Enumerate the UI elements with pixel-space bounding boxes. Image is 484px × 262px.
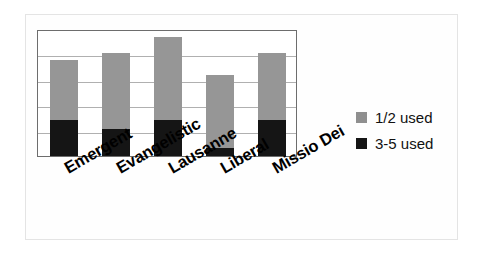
bar-segment-3-5-used[interactable]: [50, 120, 77, 156]
legend-swatch-black-icon: [356, 138, 367, 149]
bar-stack[interactable]: [102, 53, 129, 156]
bar-segment-1-2-used[interactable]: [258, 53, 285, 120]
chart-figure: EmergentEvangelisticLausanneLiberalMissi…: [0, 0, 484, 262]
legend-label-1-2-used: 1/2 used: [375, 109, 433, 126]
bar-group: [258, 31, 285, 156]
bar-segment-1-2-used[interactable]: [206, 75, 233, 149]
bar-segment-1-2-used[interactable]: [50, 60, 77, 121]
plot-area: [37, 30, 297, 157]
legend-swatch-gray-icon: [356, 112, 367, 123]
bar-group: [50, 31, 77, 156]
bar-segment-3-5-used[interactable]: [154, 120, 181, 156]
bar-stack[interactable]: [258, 53, 285, 156]
chart-legend: 1/2 used 3-5 used: [356, 104, 466, 156]
bar-segment-1-2-used[interactable]: [102, 53, 129, 129]
bar-series-container: [38, 31, 296, 156]
bar-segment-3-5-used[interactable]: [258, 120, 285, 156]
bar-segment-3-5-used[interactable]: [206, 148, 233, 156]
legend-item-1-2-used[interactable]: 1/2 used: [356, 104, 466, 130]
legend-label-3-5-used: 3-5 used: [375, 135, 433, 152]
bar-group: [102, 31, 129, 156]
bar-segment-3-5-used[interactable]: [102, 129, 129, 156]
bar-stack[interactable]: [154, 37, 181, 156]
legend-item-3-5-used[interactable]: 3-5 used: [356, 130, 466, 156]
bar-stack[interactable]: [50, 60, 77, 157]
bar-group: [154, 31, 181, 156]
bar-segment-1-2-used[interactable]: [154, 37, 181, 121]
bar-group: [206, 31, 233, 156]
bar-stack[interactable]: [206, 75, 233, 156]
